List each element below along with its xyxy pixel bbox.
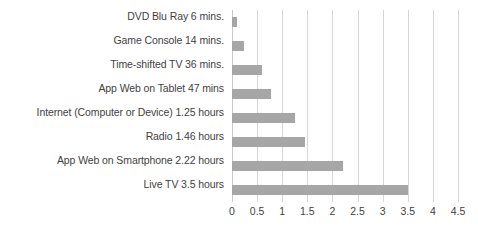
value-axis: 00.511.522.533.544.5: [232, 205, 458, 225]
bar: [232, 137, 305, 147]
x-tick-label: 4.5: [451, 205, 466, 218]
category-label: Time-shifted TV 36 mins.: [0, 58, 224, 70]
category-label: App Web on Tablet 47 mins: [0, 82, 224, 94]
horizontal-bar-chart: DVD Blu Ray 6 mins. Game Console 14 mins…: [0, 0, 478, 242]
gridline: [458, 10, 459, 202]
plot-area: [232, 10, 458, 202]
bar: [232, 41, 244, 51]
gridline: [257, 10, 258, 202]
x-tick-label: 0.5: [250, 205, 265, 218]
category-label: Game Console 14 mins.: [0, 34, 224, 46]
bar: [232, 89, 271, 99]
gridline: [408, 10, 409, 202]
category-label: DVD Blu Ray 6 mins.: [0, 10, 224, 22]
bar: [232, 113, 295, 123]
gridline: [307, 10, 308, 202]
x-tick-label: 3: [380, 205, 386, 218]
x-tick-label: 3.5: [400, 205, 415, 218]
gridline: [282, 10, 283, 202]
category-label: Internet (Computer or Device) 1.25 hours: [0, 106, 224, 118]
gridline: [433, 10, 434, 202]
gridline: [383, 10, 384, 202]
gridline: [358, 10, 359, 202]
x-tick-label: 2: [330, 205, 336, 218]
bar: [232, 185, 408, 195]
axis-line-zero: [232, 10, 233, 202]
x-tick-label: 0: [229, 205, 235, 218]
x-tick-label: 1: [279, 205, 285, 218]
category-label: Live TV 3.5 hours: [0, 178, 224, 190]
category-axis: DVD Blu Ray 6 mins. Game Console 14 mins…: [0, 10, 228, 202]
gridline: [332, 10, 333, 202]
bar: [232, 65, 262, 75]
x-tick-label: 4: [430, 205, 436, 218]
bar: [232, 17, 237, 27]
category-label: App Web on Smartphone 2.22 hours: [0, 154, 224, 166]
x-tick-label: 1.5: [300, 205, 315, 218]
category-label: Radio 1.46 hours: [0, 130, 224, 142]
bar: [232, 161, 343, 171]
x-tick-label: 2.5: [350, 205, 365, 218]
